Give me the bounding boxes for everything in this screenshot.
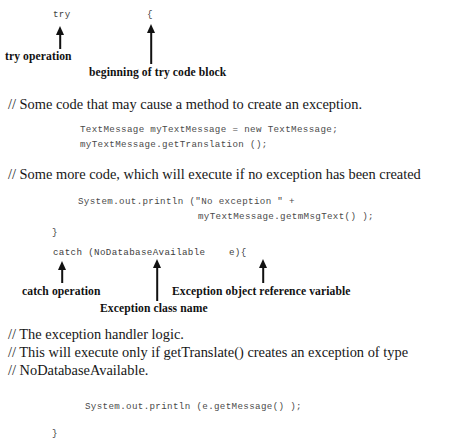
code-line-try-keyword: try	[53, 9, 71, 20]
arrow-exception-object-reference	[258, 259, 268, 283]
arrow-stem	[59, 34, 61, 49]
callout-try-operation: try operation	[5, 50, 72, 63]
callout-beginning-of-try-code-block: beginning of try code block	[89, 66, 226, 79]
code-line-catch-close-brace: }	[52, 428, 58, 438]
comment-nodatabaseavailable: // NoDatabaseAvailable.	[8, 362, 148, 378]
code-figure-page: try { TextMessage myTextMessage = new Te…	[0, 0, 452, 438]
callout-exception-class-name: Exception class name	[100, 302, 208, 315]
arrow-try-operation	[55, 26, 65, 49]
arrow-try-code-block	[146, 24, 156, 64]
arrow-stem	[61, 269, 63, 283]
code-line-println-get-message: System.out.println (e.getMessage() );	[85, 401, 302, 412]
comment-handler-logic: // The exception handler logic.	[8, 326, 184, 342]
comment-some-more-code: // Some more code, which will execute if…	[8, 166, 421, 182]
code-line-new-textmessage: TextMessage myTextMessage = new TextMess…	[80, 124, 338, 135]
arrow-stem	[156, 267, 158, 301]
code-line-println-no-exception-continued: myTextMessage.getmMsgText() );	[198, 211, 374, 222]
arrow-stem	[150, 32, 152, 64]
callout-catch-operation: catch operation	[22, 285, 100, 298]
comment-some-code: // Some code that may cause a method to …	[8, 96, 362, 112]
code-line-println-no-exception: System.out.println ("No exception " +	[78, 196, 295, 207]
comment-this-will-execute: // This will execute only if getTranslat…	[8, 344, 408, 360]
code-line-get-translation-call: myTextMessage.getTranslation ();	[80, 139, 268, 150]
arrow-stem	[262, 267, 264, 283]
code-line-catch-clause: catch (NoDatabaseAvailable e){	[53, 247, 247, 258]
arrow-exception-class-name	[152, 259, 162, 301]
code-line-try-open-brace: {	[147, 9, 153, 20]
callout-exception-object-reference-variable: Exception object reference variable	[172, 285, 351, 298]
code-line-try-close-brace: }	[52, 227, 58, 238]
arrow-catch-operation	[57, 261, 67, 283]
